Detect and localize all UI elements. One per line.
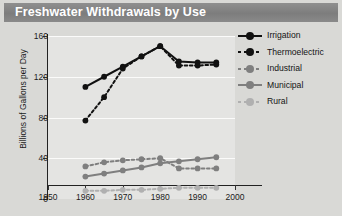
data-point	[213, 166, 219, 172]
data-point	[101, 94, 107, 100]
data-point	[195, 166, 201, 172]
legend: IrrigationThermoelectricIndustrialMunici…	[238, 27, 340, 110]
legend-item-thermoelectric[interactable]: Thermoelectric	[238, 44, 340, 61]
data-point	[83, 84, 89, 90]
data-point	[120, 66, 126, 72]
legend-label: Rural	[267, 96, 288, 106]
page-title: Freshwater Withdrawals by Use	[15, 5, 206, 19]
legend-label: Irrigation	[267, 30, 300, 40]
data-point	[139, 165, 145, 171]
chart-window: Freshwater Withdrawals by Use Billions o…	[0, 0, 342, 216]
legend-dot-icon	[246, 65, 254, 73]
series-line	[85, 46, 216, 120]
data-point	[195, 185, 201, 191]
series-rural	[83, 185, 220, 194]
data-point	[120, 157, 126, 163]
data-point	[213, 185, 219, 191]
data-point	[139, 53, 145, 59]
chart-canvas: Billions of Gallons per Day 04080120160 …	[0, 22, 342, 216]
legend-dot-icon	[246, 32, 254, 40]
legend-item-rural[interactable]: Rural	[238, 93, 340, 110]
legend-item-industrial[interactable]: Industrial	[238, 60, 340, 77]
legend-label: Industrial	[267, 63, 302, 73]
data-point	[195, 63, 201, 69]
legend-marker-icon	[238, 96, 262, 107]
data-point	[213, 62, 219, 68]
data-point	[101, 188, 107, 194]
data-point	[176, 185, 182, 191]
data-point	[83, 118, 89, 124]
legend-marker-icon	[238, 63, 262, 74]
data-point	[157, 186, 163, 192]
data-point	[101, 159, 107, 165]
legend-marker-icon	[238, 46, 262, 57]
data-point	[195, 156, 201, 162]
data-point	[83, 174, 89, 180]
series-thermoelectric	[83, 43, 220, 123]
data-point	[120, 168, 126, 174]
title-bar: Freshwater Withdrawals by Use	[4, 3, 338, 22]
legend-label: Municipal	[267, 80, 303, 90]
data-point	[120, 187, 126, 193]
legend-marker-icon	[238, 30, 262, 41]
data-point	[176, 158, 182, 164]
legend-dot-icon	[246, 48, 254, 56]
data-point	[139, 187, 145, 193]
data-point	[213, 154, 219, 160]
data-point	[176, 166, 182, 172]
data-point	[101, 74, 107, 80]
data-point	[83, 164, 89, 170]
legend-dot-icon	[246, 81, 254, 89]
legend-label: Thermoelectric	[267, 47, 324, 57]
data-point	[83, 188, 89, 194]
data-point	[157, 43, 163, 49]
data-point	[101, 171, 107, 177]
data-point	[139, 156, 145, 162]
data-point	[176, 63, 182, 69]
data-point	[157, 155, 163, 161]
legend-dot-icon	[246, 98, 254, 106]
legend-marker-icon	[238, 79, 262, 90]
legend-item-irrigation[interactable]: Irrigation	[238, 27, 340, 44]
data-point	[157, 160, 163, 166]
legend-item-municipal[interactable]: Municipal	[238, 77, 340, 94]
